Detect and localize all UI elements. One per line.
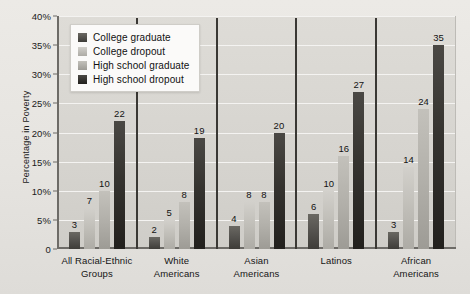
legend-swatch-high-school-graduate	[78, 61, 87, 70]
bar	[338, 156, 349, 249]
bar-value-label: 27	[346, 79, 371, 90]
y-axis-tick-mark	[53, 132, 57, 133]
group-separator	[295, 18, 297, 249]
bar-value-label: 22	[107, 108, 132, 119]
bar	[229, 226, 240, 249]
gridline	[59, 103, 456, 104]
bar	[353, 92, 364, 249]
y-axis-tick-label: 30%	[32, 69, 51, 80]
y-axis-tick-label: 10%	[32, 185, 51, 196]
chart-legend: College graduate College dropout High sc…	[70, 24, 200, 92]
legend-item: College dropout	[78, 44, 190, 58]
x-axis-group-label: All Racial-Ethnic Groups	[57, 255, 137, 280]
legend-label: College dropout	[93, 46, 165, 57]
bar-value-label: 20	[267, 120, 292, 131]
legend-item: High school dropout	[78, 72, 190, 86]
bar	[433, 45, 444, 249]
bar	[259, 202, 270, 249]
y-axis-tick-label: 0	[46, 244, 51, 255]
legend-swatch-college-dropout	[78, 47, 87, 56]
y-axis-tick-label: 40%	[32, 11, 51, 22]
bar	[99, 191, 110, 249]
bar	[388, 232, 399, 249]
x-axis-group-label: Asian Americans	[217, 255, 297, 280]
y-axis-tick-label: 25%	[32, 98, 51, 109]
bar	[149, 237, 160, 249]
y-axis-title: Percentage in Poverty	[21, 42, 31, 232]
y-axis-tick-mark	[53, 249, 57, 250]
legend-swatch-high-school-dropout	[78, 75, 87, 84]
bar	[403, 167, 414, 249]
y-axis-tick-label: 20%	[32, 127, 51, 138]
y-axis-tick-mark	[53, 219, 57, 220]
y-axis-tick-mark	[53, 161, 57, 162]
poverty-education-bar-chart: 40%35%30%25%20%15%10%5%0371022All Racial…	[0, 0, 470, 294]
bar	[418, 109, 429, 249]
legend-item: College graduate	[78, 30, 190, 44]
bar	[244, 202, 255, 249]
legend-label: High school graduate	[93, 60, 190, 71]
bar	[84, 208, 95, 249]
group-separator	[216, 18, 218, 249]
legend-swatch-college-graduate	[78, 33, 87, 42]
y-axis-tick-mark	[53, 45, 57, 46]
bar	[274, 133, 285, 250]
y-axis-tick-label: 35%	[32, 40, 51, 51]
legend-label: High school dropout	[93, 74, 184, 85]
bar	[308, 214, 319, 249]
bar-value-label: 35	[426, 32, 451, 43]
y-axis-tick-label: 5%	[37, 214, 51, 225]
group-separator	[375, 18, 377, 249]
x-axis-group-label: African Americans	[376, 255, 456, 280]
gridline	[59, 16, 456, 17]
bar	[179, 202, 190, 249]
bar	[323, 191, 334, 249]
bar-value-label: 19	[187, 125, 212, 136]
y-axis-tick-mark	[53, 103, 57, 104]
legend-label: College graduate	[93, 32, 171, 43]
y-axis-tick-label: 15%	[32, 156, 51, 167]
legend-item: High school graduate	[78, 58, 190, 72]
x-axis-group-label: Latinos	[296, 255, 376, 268]
y-axis-tick-mark	[53, 16, 57, 17]
bar	[164, 220, 175, 249]
y-axis-tick-mark	[53, 74, 57, 75]
bar	[69, 232, 80, 249]
x-axis-group-label: White Americans	[137, 255, 217, 280]
y-axis-tick-mark	[53, 190, 57, 191]
bar	[114, 121, 125, 249]
bar	[194, 138, 205, 249]
